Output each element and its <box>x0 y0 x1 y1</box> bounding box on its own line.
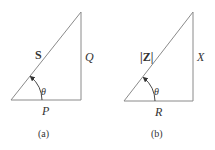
vertical-label-q: Q <box>85 50 94 64</box>
horizontal-label-p: P <box>41 104 50 118</box>
caption-a: (a) <box>38 128 49 140</box>
horizontal-label-r: R <box>154 105 163 119</box>
angle-label-theta-b: θ <box>154 86 159 97</box>
caption-b: (b) <box>151 128 163 140</box>
triangle-diagrams: S Q P θ (a) |Z| X R θ (b) <box>0 0 215 150</box>
hypotenuse-label-s: S <box>35 48 42 62</box>
angle-label-theta-a: θ <box>41 86 46 97</box>
power-triangle: S Q P θ (a) <box>11 12 94 140</box>
impedance-triangle: |Z| X R θ (b) <box>124 12 205 140</box>
triangle-a-outline <box>11 12 81 100</box>
vertical-label-x: X <box>196 50 205 64</box>
hypotenuse-label-z: |Z| <box>140 50 153 64</box>
